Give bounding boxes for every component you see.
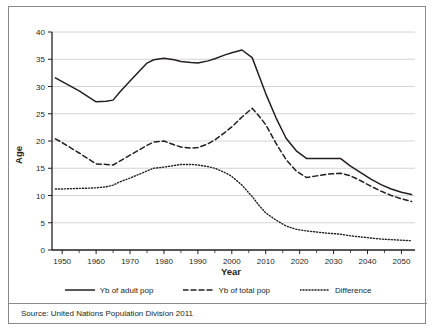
svg-text:15: 15 [36, 164, 45, 173]
svg-text:5: 5 [41, 219, 46, 228]
solid-line-swatch [65, 286, 95, 294]
svg-text:35: 35 [36, 55, 45, 64]
y-axis: 0510152025303540 [36, 28, 52, 255]
y-axis-title: Age [13, 146, 24, 164]
series-dashed [55, 108, 411, 201]
chart-plot-area: 0510152025303540 19501960197019801990200… [9, 7, 427, 279]
dashed-line-swatch [183, 286, 213, 294]
legend-item-difference: Difference [300, 286, 371, 295]
svg-text:1980: 1980 [155, 257, 173, 266]
svg-text:1960: 1960 [87, 257, 105, 266]
figure-frame: 0510152025303540 19501960197019801990200… [8, 6, 426, 324]
svg-text:2000: 2000 [223, 257, 241, 266]
legend-label-total-pop: Yb of total pop [218, 286, 270, 295]
svg-text:0: 0 [41, 246, 46, 255]
svg-text:2020: 2020 [291, 257, 309, 266]
legend-item-total-pop: Yb of total pop [183, 286, 270, 295]
source-note-zone: Source: United Nations Population Divisi… [9, 303, 427, 325]
legend-label-adult-pop: Yb of adult pop [100, 286, 154, 295]
svg-text:1990: 1990 [189, 257, 207, 266]
svg-text:1950: 1950 [53, 257, 71, 266]
svg-text:30: 30 [36, 83, 45, 92]
svg-text:20: 20 [36, 137, 45, 146]
line-chart: 0510152025303540 19501960197019801990200… [9, 7, 427, 279]
grid-lines [52, 32, 415, 223]
svg-text:2010: 2010 [257, 257, 275, 266]
svg-text:2050: 2050 [393, 257, 411, 266]
series-dotted [55, 164, 411, 240]
svg-text:40: 40 [36, 28, 45, 37]
svg-text:1970: 1970 [121, 257, 139, 266]
svg-text:10: 10 [36, 192, 45, 201]
series-lines [55, 50, 411, 241]
svg-text:2040: 2040 [359, 257, 377, 266]
source-note: Source: United Nations Population Divisi… [21, 309, 193, 318]
x-axis: 1950196019701980199020002010202020302040… [52, 250, 415, 266]
chart-legend: Yb of adult pop Yb of total pop Differen… [9, 281, 427, 299]
svg-text:25: 25 [36, 110, 45, 119]
legend-label-difference: Difference [335, 286, 371, 295]
series-solid [55, 50, 411, 194]
legend-item-adult-pop: Yb of adult pop [65, 286, 154, 295]
svg-text:2030: 2030 [325, 257, 343, 266]
dotted-line-swatch [300, 286, 330, 294]
x-axis-title: Year [221, 266, 241, 277]
